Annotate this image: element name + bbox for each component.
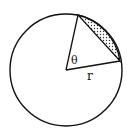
circle-segment-diagram: θ r	[0, 0, 127, 135]
radius-label: r	[87, 69, 93, 83]
shaded-segment	[78, 15, 120, 61]
angle-label: θ	[71, 54, 78, 67]
